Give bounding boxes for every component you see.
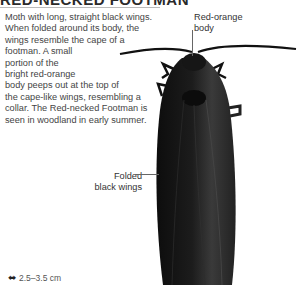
annotation-red-orange-body: Red-orange body [194, 12, 243, 34]
moth-illustration [0, 0, 298, 285]
annotation-text: body [194, 23, 243, 34]
leader-line-body [192, 30, 193, 56]
wingspan-arrows-icon: ⬌ [8, 272, 16, 283]
size-value: 2.5–3.5 cm [19, 273, 61, 283]
annotation-text: Folded [80, 171, 142, 182]
annotation-text: black wings [80, 182, 142, 193]
wingspan-size: ⬌ 2.5–3.5 cm [8, 272, 61, 283]
annotation-folded-wings: Folded black wings [80, 171, 142, 193]
leader-line-wings [135, 174, 159, 175]
annotation-text: Red-orange [194, 12, 243, 23]
